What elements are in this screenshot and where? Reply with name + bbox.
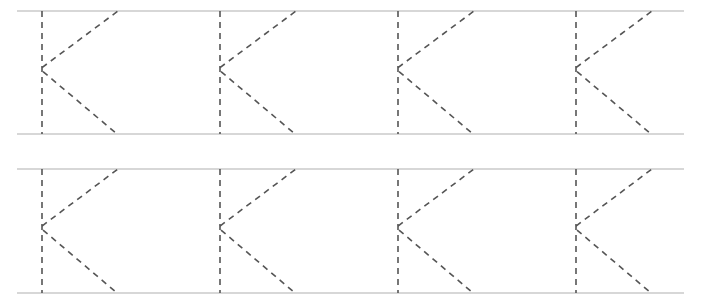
letter-k-trace	[398, 169, 474, 293]
letter-k-trace	[220, 11, 296, 134]
letter-k-trace	[576, 11, 652, 134]
tracing-row	[17, 169, 684, 293]
worksheet-canvas	[0, 0, 714, 308]
letter-k-trace	[220, 169, 296, 293]
tracing-row	[17, 11, 684, 134]
letter-k-trace	[42, 169, 118, 293]
letter-k-trace	[398, 11, 474, 134]
letter-k-trace	[42, 11, 118, 134]
letter-k-trace	[576, 169, 652, 293]
